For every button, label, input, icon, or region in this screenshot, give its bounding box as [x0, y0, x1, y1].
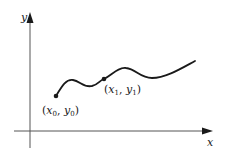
y-axis-label: y [20, 11, 28, 24]
diagram-canvas: y x (x0, y0) (x1, y1) [0, 0, 232, 157]
y-axis-arrow-icon [27, 12, 34, 23]
point-label-x0-y0: (x0, y0) [42, 104, 79, 118]
x-axis-arrow-icon [202, 128, 213, 135]
point-x1-y1 [102, 77, 107, 82]
point-x0-y0 [54, 94, 59, 99]
point-label-x1-y1: (x1, y1) [104, 83, 141, 97]
x-axis-label: x [207, 136, 214, 149]
